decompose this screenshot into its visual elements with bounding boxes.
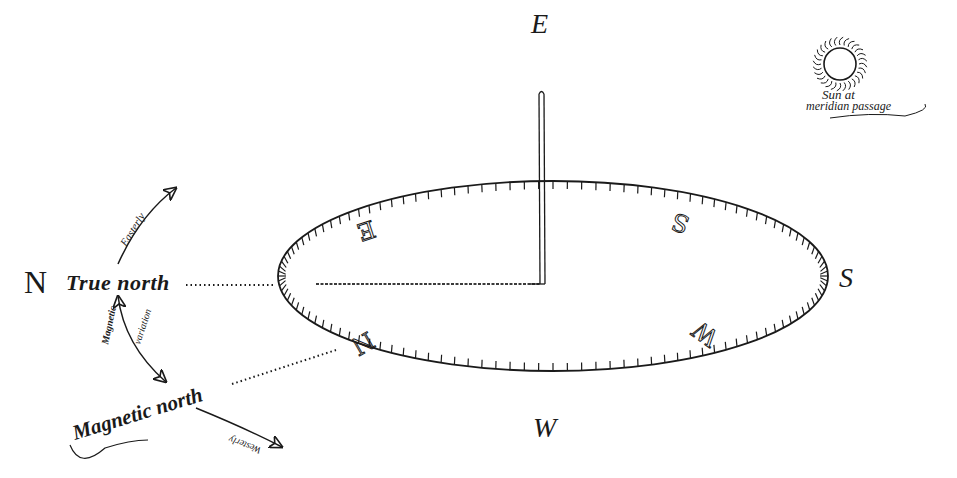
dial-letter-n: N — [347, 326, 379, 361]
cardinal-label-right: S — [839, 264, 853, 292]
westerly-label: Westerly — [226, 434, 262, 457]
dial-letter-s: S — [668, 207, 693, 239]
dial-letter-w: W — [687, 315, 724, 352]
magnetic-north-dotted-line — [232, 350, 336, 384]
magnetic-north-label: Magnetic north — [68, 382, 205, 445]
true-north-label: True north — [66, 272, 170, 294]
sun-label-line-2: meridian passage — [806, 100, 891, 112]
sun-icon — [813, 37, 867, 91]
magnetic-variation-label-1: Magnetic — [99, 305, 118, 347]
magnetic-variation-label-2: variation — [131, 307, 153, 345]
gnomon — [530, 92, 545, 285]
dial-letter-e: E — [353, 214, 378, 246]
cardinal-label-top: E — [531, 10, 548, 38]
cardinal-label-bottom: W — [533, 414, 556, 442]
easterly-label: Easterly — [117, 211, 147, 249]
cardinal-label-left: N — [24, 266, 47, 298]
compass-diagram: Easterly Magnetic variation Westerly Mag… — [0, 0, 957, 478]
